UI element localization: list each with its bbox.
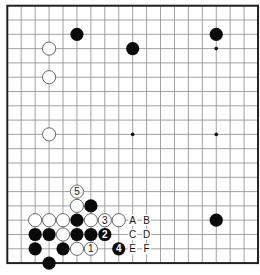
white-stone — [56, 228, 69, 241]
black-stone: 2 — [98, 228, 111, 241]
black-stone-icon — [29, 228, 42, 241]
label-text: C — [129, 229, 136, 240]
label-text: B — [143, 215, 150, 226]
black-stone — [29, 228, 42, 241]
star-point-icon — [214, 47, 218, 51]
black-stone — [84, 199, 97, 212]
black-stone-icon — [84, 199, 97, 212]
board-letter-label: D — [142, 229, 151, 240]
white-stone-icon — [42, 128, 55, 141]
white-stone-icon — [42, 42, 55, 55]
black-stone-icon — [29, 242, 42, 255]
black-stone-icon — [210, 28, 223, 41]
black-stone — [42, 257, 55, 270]
board-letter-label: F — [142, 243, 151, 254]
board-letter-label: B — [142, 215, 151, 226]
black-stone — [210, 214, 223, 227]
black-stone-icon — [126, 42, 139, 55]
white-stone-icon — [70, 199, 83, 212]
white-stone — [84, 214, 97, 227]
black-stone-icon — [70, 214, 83, 227]
board-letter-label: C — [128, 229, 137, 240]
white-stone — [56, 214, 69, 227]
board-letter-label: E — [128, 243, 137, 254]
black-stone-icon — [70, 228, 83, 241]
white-stone — [112, 214, 125, 227]
label-text: D — [143, 229, 150, 240]
white-stone-icon — [84, 214, 97, 227]
white-stone-icon — [112, 214, 125, 227]
black-stone — [70, 28, 83, 41]
star-point-icon — [131, 133, 135, 137]
star-point-icon — [214, 133, 218, 137]
black-stone — [70, 214, 83, 227]
black-stone — [42, 228, 55, 241]
black-stone — [70, 228, 83, 241]
white-stone-icon — [56, 228, 69, 241]
go-board: ABCDEF 53214 — [0, 0, 260, 275]
black-stone-icon — [42, 228, 55, 241]
black-stone — [84, 228, 97, 241]
move-number: 2 — [102, 229, 108, 240]
white-stone — [42, 71, 55, 84]
white-stone-icon — [42, 71, 55, 84]
black-stone-icon — [70, 28, 83, 41]
white-stone — [42, 214, 55, 227]
black-stone-icon — [42, 257, 55, 270]
white-stone — [70, 242, 83, 255]
white-stone — [42, 42, 55, 55]
black-stone-icon — [56, 242, 69, 255]
black-stone-icon — [84, 228, 97, 241]
board-letter-label: A — [128, 215, 137, 226]
black-stone — [56, 242, 69, 255]
black-stone-icon — [210, 214, 223, 227]
label-text: F — [144, 243, 150, 254]
white-stone-icon — [70, 242, 83, 255]
white-stone: 1 — [84, 242, 97, 255]
move-number: 5 — [74, 186, 80, 197]
white-stone-icon — [56, 214, 69, 227]
white-stone — [70, 199, 83, 212]
white-stone — [42, 128, 55, 141]
white-stone — [29, 214, 42, 227]
black-stone — [126, 42, 139, 55]
white-stone: 3 — [98, 214, 111, 227]
white-stone: 5 — [70, 185, 83, 198]
black-stone: 4 — [112, 242, 125, 255]
black-stone — [29, 242, 42, 255]
label-text: A — [129, 215, 136, 226]
white-stone-icon — [29, 214, 42, 227]
label-text: E — [129, 243, 136, 254]
move-number: 4 — [116, 243, 122, 254]
black-stone — [210, 28, 223, 41]
move-number: 1 — [88, 243, 94, 254]
white-stone-icon — [42, 214, 55, 227]
move-number: 3 — [102, 215, 108, 226]
